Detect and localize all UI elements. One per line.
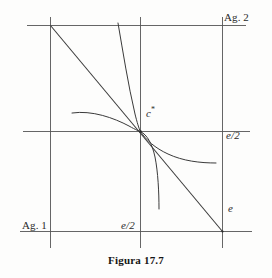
figure-caption: Figura 17.7 [0,254,272,266]
agent-2-origin-label: Ag. 2 [224,12,249,23]
x-axis-half-endowment-label: e/2 [121,220,135,231]
equilibrium-point-label: c* [146,108,155,119]
equilibrium-star-superscript: * [151,105,155,114]
agent-1-origin-label: Ag. 1 [22,220,47,231]
indifference-curve-agent-2 [118,23,216,163]
endowment-point-marker [221,230,223,232]
y-axis-half-endowment-label: e/2 [226,130,240,141]
indifference-curve-agent-1 [72,112,159,209]
figure-container: Ag. 2 Ag. 1 e/2 e/2 e c* Figura 17.7 [0,0,272,278]
equilibrium-point-marker [139,130,142,133]
budget-line [51,26,223,232]
endowment-point-label: e [228,203,233,214]
